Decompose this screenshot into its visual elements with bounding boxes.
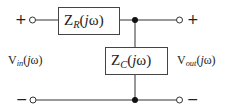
- vin-label: Vin(jω): [8, 54, 42, 69]
- vout-symbol: V: [177, 53, 186, 67]
- zr-label: ZR(jω): [64, 13, 104, 30]
- top-junction-node-icon: [132, 17, 138, 23]
- input-plus-sign: +: [15, 12, 27, 26]
- vout-subscript: out: [186, 59, 197, 68]
- input-minus-sign: −: [16, 92, 28, 106]
- vout-arg-rest: ω): [204, 53, 216, 67]
- output-plus-terminal-icon: [177, 17, 183, 23]
- zr-symbol: Z: [64, 12, 73, 28]
- vin-arg-rest: ω): [31, 53, 43, 67]
- output-minus-sign: −: [187, 92, 199, 106]
- vin-symbol: V: [8, 53, 17, 67]
- output-minus-terminal-icon: [177, 97, 183, 103]
- input-minus-terminal-icon: [30, 97, 36, 103]
- zr-arg-rest: ω): [89, 12, 104, 28]
- zc-symbol: Z: [111, 52, 120, 68]
- zc-label: ZC(jω): [111, 53, 151, 70]
- output-plus-sign: +: [187, 12, 199, 26]
- input-plus-terminal-icon: [30, 17, 36, 23]
- vout-label: Vout(jω): [177, 54, 216, 69]
- bottom-junction-node-icon: [132, 97, 138, 103]
- zc-arg-rest: ω): [136, 52, 151, 68]
